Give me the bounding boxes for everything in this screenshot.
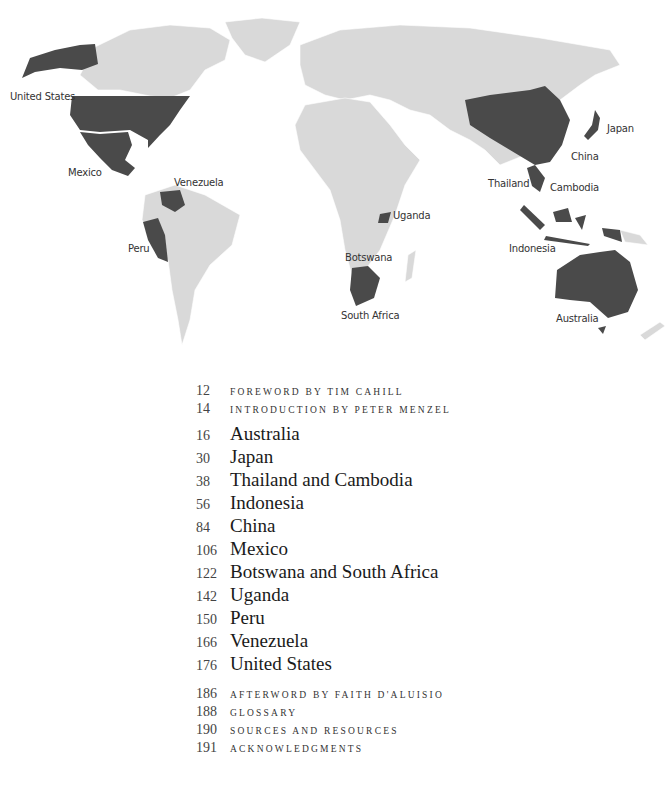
world-map: United States Mexico Venezuela Peru Ugan… xyxy=(0,0,668,360)
toc-entry-acknowledgments[interactable]: 191 Acknowledgments xyxy=(196,740,363,756)
page-number: 16 xyxy=(196,428,230,444)
toc-entry-foreword[interactable]: 12 Foreword by Tim Cahill xyxy=(196,383,404,399)
entry-title: Foreword by Tim Cahill xyxy=(230,387,404,397)
map-label-thailand: Thailand xyxy=(488,178,529,189)
entry-title: Introduction by Peter Menzel xyxy=(230,405,451,415)
page-number: 142 xyxy=(196,589,230,605)
entry-title: Botswana and South Africa xyxy=(230,561,438,583)
page-number: 188 xyxy=(196,704,230,720)
map-label-peru: Peru xyxy=(128,243,149,254)
page-number: 56 xyxy=(196,497,230,513)
toc-entry-china[interactable]: 84 China xyxy=(196,515,275,537)
page-number: 150 xyxy=(196,612,230,628)
map-label-south-africa: South Africa xyxy=(341,310,399,321)
entry-title: Indonesia xyxy=(230,492,304,514)
map-label-australia: Australia xyxy=(556,313,598,324)
entry-title: Mexico xyxy=(230,538,288,560)
page-number: 186 xyxy=(196,686,230,702)
page-number: 38 xyxy=(196,474,230,490)
toc-entry-united-states[interactable]: 176 United States xyxy=(196,653,332,675)
toc-entry-australia[interactable]: 16 Australia xyxy=(196,423,300,445)
page-number: 190 xyxy=(196,722,230,738)
entry-title: Venezuela xyxy=(230,630,308,652)
world-map-graphic xyxy=(0,0,668,360)
entry-title: Sources and Resources xyxy=(230,726,399,736)
map-label-china: China xyxy=(571,151,599,162)
map-label-botswana: Botswana xyxy=(345,252,392,263)
page-number: 122 xyxy=(196,566,230,582)
map-label-cambodia: Cambodia xyxy=(550,182,599,193)
page-number: 84 xyxy=(196,520,230,536)
map-label-japan: Japan xyxy=(607,123,634,134)
toc-entry-peru[interactable]: 150 Peru xyxy=(196,607,265,629)
entry-title: United States xyxy=(230,653,332,675)
toc-entry-sources[interactable]: 190 Sources and Resources xyxy=(196,722,399,738)
entry-title: Thailand and Cambodia xyxy=(230,469,413,491)
entry-title: Australia xyxy=(230,423,300,445)
page-number: 176 xyxy=(196,658,230,674)
map-label-indonesia: Indonesia xyxy=(509,243,556,254)
map-label-mexico: Mexico xyxy=(68,167,102,178)
toc-entry-venezuela[interactable]: 166 Venezuela xyxy=(196,630,308,652)
entry-title: Afterword by Faith D'Aluisio xyxy=(230,690,444,700)
toc-entry-uganda[interactable]: 142 Uganda xyxy=(196,584,289,606)
toc-entry-indonesia[interactable]: 56 Indonesia xyxy=(196,492,304,514)
entry-title: Uganda xyxy=(230,584,289,606)
map-label-uganda: Uganda xyxy=(393,210,430,221)
toc-entry-mexico[interactable]: 106 Mexico xyxy=(196,538,288,560)
toc-entry-japan[interactable]: 30 Japan xyxy=(196,446,273,468)
map-label-venezuela: Venezuela xyxy=(174,177,224,188)
map-label-united-states: United States xyxy=(10,91,75,102)
toc-entry-botswana-south-africa[interactable]: 122 Botswana and South Africa xyxy=(196,561,438,583)
page-number: 166 xyxy=(196,635,230,651)
entry-title: China xyxy=(230,515,275,537)
page-number: 14 xyxy=(196,401,230,417)
entry-title: Acknowledgments xyxy=(230,744,363,754)
toc-entry-glossary[interactable]: 188 Glossary xyxy=(196,704,297,720)
toc-entry-introduction[interactable]: 14 Introduction by Peter Menzel xyxy=(196,401,451,417)
entry-title: Glossary xyxy=(230,708,297,718)
page-number: 12 xyxy=(196,383,230,399)
page-number: 30 xyxy=(196,451,230,467)
page-number: 106 xyxy=(196,543,230,559)
toc-entry-afterword[interactable]: 186 Afterword by Faith D'Aluisio xyxy=(196,686,444,702)
toc-entry-thailand-cambodia[interactable]: 38 Thailand and Cambodia xyxy=(196,469,413,491)
page-number: 191 xyxy=(196,740,230,756)
entry-title: Peru xyxy=(230,607,265,629)
entry-title: Japan xyxy=(230,446,273,468)
